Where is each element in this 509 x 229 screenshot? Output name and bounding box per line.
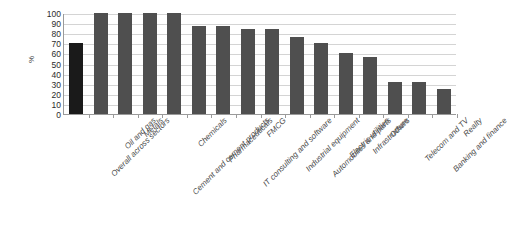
bar-slot <box>236 14 261 114</box>
y-axis-tick-label: 20 <box>37 91 61 99</box>
bar[interactable] <box>437 89 451 114</box>
bar[interactable] <box>314 43 328 114</box>
y-axis-tick-label: 60 <box>37 50 61 58</box>
bar[interactable] <box>216 26 230 114</box>
bar-slot <box>383 14 408 114</box>
bar[interactable] <box>290 37 304 114</box>
y-axis-tick-label: 90 <box>37 20 61 28</box>
bar[interactable] <box>69 43 83 114</box>
bar[interactable] <box>339 53 353 114</box>
bar[interactable] <box>363 57 377 114</box>
bar[interactable] <box>167 13 181 114</box>
y-axis-tick-label: 40 <box>37 71 61 79</box>
bar[interactable] <box>143 13 157 114</box>
bar-slot <box>89 14 114 114</box>
bar[interactable] <box>388 82 402 114</box>
y-axis-tick-label: 10 <box>37 101 61 109</box>
bar-slot <box>334 14 359 114</box>
y-axis-tick-label: 100 <box>37 10 61 18</box>
y-axis-tick-label: 30 <box>37 81 61 89</box>
bar-slot <box>138 14 163 114</box>
x-axis-tick <box>457 114 458 118</box>
y-axis-tick-label: 0 <box>37 111 61 119</box>
bar[interactable] <box>94 13 108 114</box>
x-axis-category-label: Pharmaceuticals <box>226 116 274 164</box>
bar-slot <box>113 14 138 114</box>
bar[interactable] <box>412 82 426 114</box>
plot-area <box>63 14 456 115</box>
y-axis-tick-label: 50 <box>37 61 61 69</box>
bar-slot <box>309 14 334 114</box>
bar[interactable] <box>265 29 279 114</box>
x-axis-category-label: Industrial equipment <box>304 116 361 173</box>
x-axis-category-labels: Overall across sectorsOil and gasMetalsC… <box>63 116 456 224</box>
x-axis-category-label: Chemicals <box>196 116 229 149</box>
y-axis-tick-labels: 1009080706050403020100 <box>37 14 61 115</box>
bar-slot <box>211 14 236 114</box>
bar-slot <box>285 14 310 114</box>
y-axis-tick-label: 80 <box>37 30 61 38</box>
bar[interactable] <box>241 29 255 114</box>
bar-slot <box>187 14 212 114</box>
bar[interactable] <box>118 13 132 114</box>
bar-slot <box>407 14 432 114</box>
bar[interactable] <box>192 26 206 114</box>
bar-slot <box>260 14 285 114</box>
bar-slot <box>432 14 457 114</box>
bar-series <box>64 14 456 114</box>
y-axis-tick-label: 70 <box>37 40 61 48</box>
y-axis-title: % <box>27 53 36 67</box>
bar-slot <box>64 14 89 114</box>
bar-slot <box>162 14 187 114</box>
bar-slot <box>358 14 383 114</box>
